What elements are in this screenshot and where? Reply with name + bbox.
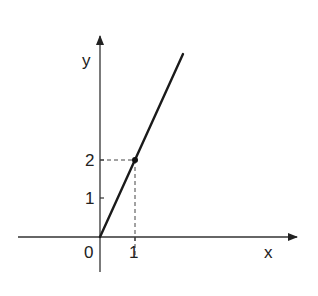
y-axis-label: y xyxy=(82,51,91,70)
y-tick-label-2: 2 xyxy=(85,151,94,170)
point-1-2 xyxy=(132,157,138,163)
y-tick-label-1: 1 xyxy=(85,189,94,208)
x-axis-label: x xyxy=(264,243,273,262)
function-line xyxy=(100,54,183,237)
origin-label: 0 xyxy=(84,243,93,262)
x-tick-label-1: 1 xyxy=(129,243,138,262)
linear-function-graph: y x 0 1 1 2 xyxy=(0,0,318,296)
